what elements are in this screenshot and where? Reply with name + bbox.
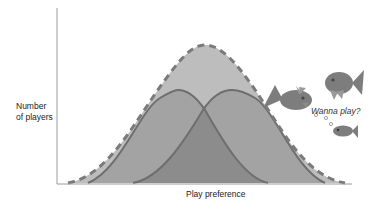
fish-icon-large-right — [325, 70, 364, 100]
x-axis-label: Play preference — [186, 189, 246, 199]
diagram-svg — [0, 0, 384, 208]
fish-icon-small — [333, 125, 358, 138]
y-axis-label-line1: Number — [16, 101, 56, 112]
y-axis-label: Number of players — [16, 101, 56, 123]
fish-icon-large-left — [263, 85, 312, 110]
y-axis-label-line2: of players — [16, 112, 56, 123]
speech-text: Wanna play? — [311, 106, 360, 116]
play-preference-diagram: Number of players Play preference Wanna … — [0, 0, 384, 208]
